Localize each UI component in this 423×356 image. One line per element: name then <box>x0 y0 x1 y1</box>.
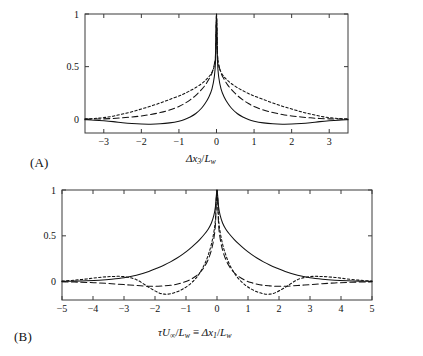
y-tick-label: 0 <box>51 276 56 287</box>
panel-b-label: (B) <box>14 329 32 345</box>
y-tick-label: 0.5 <box>67 61 80 72</box>
x-tick-label: 0 <box>215 303 220 314</box>
x-tick-label: 2 <box>289 136 294 147</box>
x-tick-label: 4 <box>339 303 344 314</box>
x-tick-label: −1 <box>174 136 185 147</box>
x-tick-label: 2 <box>277 303 282 314</box>
x-tick-label: −3 <box>119 303 130 314</box>
x-tick-label: 3 <box>327 136 332 147</box>
curve-long-dashed <box>62 190 372 286</box>
curve-solid <box>62 190 372 281</box>
x-tick-label: −4 <box>88 303 99 314</box>
curve-dotted <box>62 190 372 294</box>
x-tick-label: 3 <box>308 303 313 314</box>
y-tick-label: 1 <box>74 9 79 20</box>
y-tick-label: 0.5 <box>44 230 57 241</box>
y-tick-label: 1 <box>51 185 56 196</box>
x-tick-label: −2 <box>136 136 147 147</box>
x-tick-label: −5 <box>57 303 68 314</box>
x-tick-label: 5 <box>370 303 375 314</box>
x-tick-label: 0 <box>214 136 219 147</box>
x-tick-label: 1 <box>252 136 257 147</box>
x-tick-label: −3 <box>98 136 109 147</box>
panel-a-label: (A) <box>30 155 49 171</box>
panel-b-xaxis-title: τU∞/Lw ≡ Δx1/Lw <box>158 326 232 340</box>
figure-container: −3−2−1012300.51 (A) Δx3/Lw −5−4−3−2−1012… <box>0 0 423 356</box>
U-symbol: U <box>162 326 170 338</box>
panel-a-xaxis-title: Δx3/Lw <box>186 152 216 166</box>
L-subscript: w <box>211 157 216 166</box>
x-tick-label: −1 <box>181 303 192 314</box>
curve-dotted <box>85 14 348 119</box>
L-subscript-2: w <box>226 331 231 340</box>
x-tick-label: 1 <box>246 303 251 314</box>
panel-a: −3−2−1012300.51 (A) Δx3/Lw <box>0 0 423 180</box>
x-tick-label: −2 <box>150 303 161 314</box>
y-tick-label: 0 <box>74 114 79 125</box>
